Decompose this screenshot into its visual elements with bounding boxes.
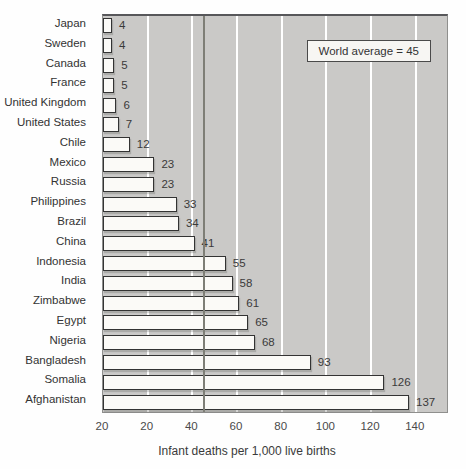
gridline	[281, 16, 283, 412]
bar-egypt	[103, 315, 248, 330]
bar-value-label-mexico: 23	[161, 157, 174, 172]
bar-value-label-brazil: 34	[186, 216, 199, 231]
bar-sweden	[103, 38, 112, 53]
bar-nigeria	[103, 335, 255, 350]
bar-value-label-sweden: 4	[119, 38, 125, 53]
country-label-china: China	[0, 232, 94, 252]
bar-japan	[103, 18, 112, 33]
plot-area: World average = 45 445567122323333441555…	[102, 14, 448, 413]
bar-value-label-somalia: 126	[391, 375, 410, 390]
bar-mexico	[103, 157, 154, 172]
bar-value-label-united-states: 7	[126, 117, 132, 132]
bar-value-label-nigeria: 68	[262, 335, 275, 350]
bar-value-label-bangladesh: 93	[318, 355, 331, 370]
bar-china	[103, 236, 195, 251]
bar-value-label-russia: 23	[161, 177, 174, 192]
gridline	[191, 16, 193, 412]
bar-value-label-philippines: 33	[184, 197, 197, 212]
world-average-box: World average = 45	[307, 40, 431, 62]
country-label-nigeria: Nigeria	[0, 331, 94, 351]
bar-indonesia	[103, 256, 226, 271]
x-axis-tick-label: 20	[96, 420, 109, 432]
country-label-afghanistan: Afghanistan	[0, 390, 94, 410]
x-axis-tick-label: 140	[405, 420, 424, 432]
gridline	[325, 16, 327, 412]
bar-chile	[103, 137, 130, 152]
bar-france	[103, 78, 114, 93]
country-label-philippines: Philippines	[0, 192, 94, 212]
bar-value-label-france: 5	[121, 78, 127, 93]
gridline	[415, 16, 417, 412]
x-axis-tick-label: 120	[360, 420, 379, 432]
bar-value-label-chile: 12	[137, 137, 150, 152]
x-axis-tick-label: 80	[274, 420, 287, 432]
country-label-united-states: United States	[0, 113, 94, 133]
country-label-canada: Canada	[0, 54, 94, 74]
country-label-japan: Japan	[0, 14, 94, 34]
bar-bangladesh	[103, 355, 311, 370]
bar-united-kingdom	[103, 98, 116, 113]
bar-value-label-india: 58	[240, 276, 253, 291]
bar-russia	[103, 177, 154, 192]
bar-value-label-japan: 4	[119, 18, 125, 33]
bar-value-label-afghanistan: 137	[416, 395, 435, 410]
bar-value-label-egypt: 65	[255, 315, 268, 330]
bar-value-label-united-kingdom: 6	[123, 98, 129, 113]
country-label-france: France	[0, 73, 94, 93]
bar-value-label-canada: 5	[121, 58, 127, 73]
bar-value-label-indonesia: 55	[233, 256, 246, 271]
bar-zimbabwe	[103, 296, 239, 311]
gridline	[370, 16, 372, 412]
gridline	[147, 16, 149, 412]
bar-india	[103, 276, 233, 291]
country-label-mexico: Mexico	[0, 153, 94, 173]
bar-somalia	[103, 375, 384, 390]
country-label-somalia: Somalia	[0, 370, 94, 390]
country-label-egypt: Egypt	[0, 311, 94, 331]
chart: World average = 45 445567122323333441555…	[0, 0, 466, 469]
x-axis-tick-label: 60	[230, 420, 243, 432]
bar-afghanistan	[103, 395, 409, 410]
country-label-russia: Russia	[0, 172, 94, 192]
x-axis-tick-label: 100	[316, 420, 335, 432]
country-label-zimbabwe: Zimbabwe	[0, 291, 94, 311]
bar-united-states	[103, 117, 119, 132]
country-label-brazil: Brazil	[0, 212, 94, 232]
x-axis-title: Infant deaths per 1,000 live births	[0, 444, 466, 458]
x-axis-tick-label: 20	[140, 420, 153, 432]
country-label-united-kingdom: United Kingdom	[0, 93, 94, 113]
bar-brazil	[103, 216, 179, 231]
country-label-bangladesh: Bangladesh	[0, 351, 94, 371]
x-axis-tick-label: 40	[185, 420, 198, 432]
country-label-chile: Chile	[0, 133, 94, 153]
country-label-india: India	[0, 271, 94, 291]
world-average-line	[203, 16, 205, 412]
bar-value-label-zimbabwe: 61	[246, 296, 259, 311]
country-label-sweden: Sweden	[0, 34, 94, 54]
bar-philippines	[103, 197, 177, 212]
country-label-indonesia: Indonesia	[0, 252, 94, 272]
gridline	[236, 16, 238, 412]
bar-canada	[103, 58, 114, 73]
